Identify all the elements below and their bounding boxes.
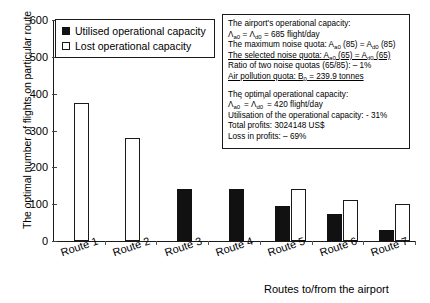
legend-swatch-filled-icon (62, 27, 70, 35)
annotation-line: Air pollution quota: B0 = 239.9 tonnes (228, 72, 404, 83)
y-tick (52, 167, 57, 168)
x-axis-title: Routes to/from the airport (264, 283, 389, 295)
annotation-line: Utilisation of the operational capacity:… (228, 111, 404, 122)
x-tick (105, 241, 106, 245)
bar-utilised (327, 214, 342, 241)
bar-utilised (275, 206, 290, 241)
y-tick-label: 100 (30, 199, 48, 210)
y-tick (52, 204, 57, 205)
annotation-line: Loss in profits: – 69% (228, 132, 404, 143)
bar-lost (125, 138, 140, 241)
annotation-spacer (228, 83, 404, 90)
bar-utilised (229, 189, 244, 241)
annotation-line: Λa0′ = Λd0′ = 420 flight/day (228, 100, 404, 111)
bar-utilised (177, 189, 192, 241)
x-tick (156, 241, 157, 245)
y-tick-label: 600 (30, 15, 48, 26)
y-tick (52, 94, 57, 95)
bar-lost (74, 103, 89, 241)
y-tick-label: 500 (30, 52, 48, 63)
annotation-box: The airport's operational capacity:Λa0 =… (222, 14, 410, 149)
bar-lost (291, 189, 306, 241)
chart-figure: The optimal number of flights on particu… (0, 0, 430, 303)
x-tick (260, 241, 261, 245)
x-tick (363, 241, 364, 245)
annotation-block-capacity: The airport's operational capacity:Λa0 =… (228, 19, 404, 83)
y-tick-label: 300 (30, 126, 48, 137)
y-tick (52, 241, 57, 242)
annotation-block-optimal: The optimal operational capacity:Λa0′ = … (228, 90, 404, 143)
x-tick (208, 241, 209, 245)
annotation-line: Ratio of two noise quotas (65/85): – 1% (228, 61, 404, 72)
annotation-line: The airport's operational capacity: (228, 19, 404, 30)
annotation-line: The maximum noise quota: Aa0 (85) = Ad0 … (228, 40, 404, 51)
legend-swatch-hollow-icon (62, 42, 70, 50)
y-tick-label: 0 (42, 236, 48, 247)
y-tick-label: 400 (30, 89, 48, 100)
legend: Utilised operational capacity Lost opera… (55, 19, 215, 58)
legend-label: Lost operational capacity (75, 41, 191, 52)
annotation-line: Total profits: 3024148 US$ (228, 121, 404, 132)
legend-label: Utilised operational capacity (75, 26, 206, 37)
annotation-line: The selected noise quota: Aa0 (65) = Ad0… (228, 51, 404, 62)
legend-item-utilised: Utilised operational capacity (62, 24, 206, 38)
y-tick-label: 200 (30, 162, 48, 173)
x-tick (312, 241, 313, 245)
x-tick (415, 241, 416, 245)
annotation-line: Λa0 = Λd0 = 685 flight/day (228, 30, 404, 41)
y-tick (52, 131, 57, 132)
legend-item-lost: Lost operational capacity (62, 39, 206, 53)
annotation-line: The optimal operational capacity: (228, 90, 404, 101)
